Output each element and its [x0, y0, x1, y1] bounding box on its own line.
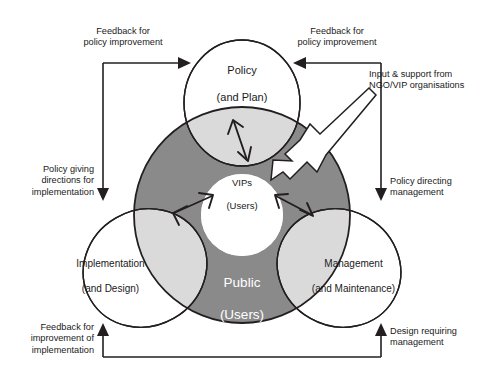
- management-label-line1: Management: [286, 258, 421, 271]
- public-label-line1: Public: [192, 275, 292, 291]
- annotation-feedback-left: Feedback for policy improvement: [58, 26, 188, 49]
- management-label-line2: (and Maintenance): [286, 283, 421, 296]
- flow-design-requiring: [375, 323, 387, 357]
- annotation-policy-directions: Policy giving directions for implementat…: [8, 164, 94, 198]
- policy-node-label: Policy (and Plan): [192, 50, 292, 118]
- annotation-feedback-right: Feedback for policy improvement: [272, 26, 402, 49]
- implementation-node-label: Implementation (and Design): [48, 245, 173, 308]
- policy-label-line2: (and Plan): [192, 91, 292, 105]
- annotation-feedback-implementation: Feedback for improvement of implementati…: [4, 322, 94, 356]
- vips-label-line2: (Users): [202, 200, 282, 212]
- public-node-label: Public (Users): [192, 259, 292, 339]
- annotation-design-requiring: Design requiring management: [390, 326, 482, 349]
- annotation-ngo-input: Input & support from NGO/VIP organisatio…: [369, 69, 484, 92]
- implementation-label-line2: (and Design): [48, 283, 173, 296]
- diagram-canvas: Policy (and Plan) Implementation (and De…: [0, 0, 484, 375]
- annotation-policy-directing: Policy directing management: [390, 176, 484, 199]
- implementation-label-line1: Implementation: [48, 258, 173, 271]
- vips-label-line1: VIPs: [202, 177, 282, 189]
- public-label-line2: (Users): [192, 307, 292, 323]
- vips-node-label: VIPs (Users): [202, 165, 282, 223]
- management-node-label: Management (and Maintenance): [286, 245, 421, 308]
- policy-label-line1: Policy: [192, 64, 292, 78]
